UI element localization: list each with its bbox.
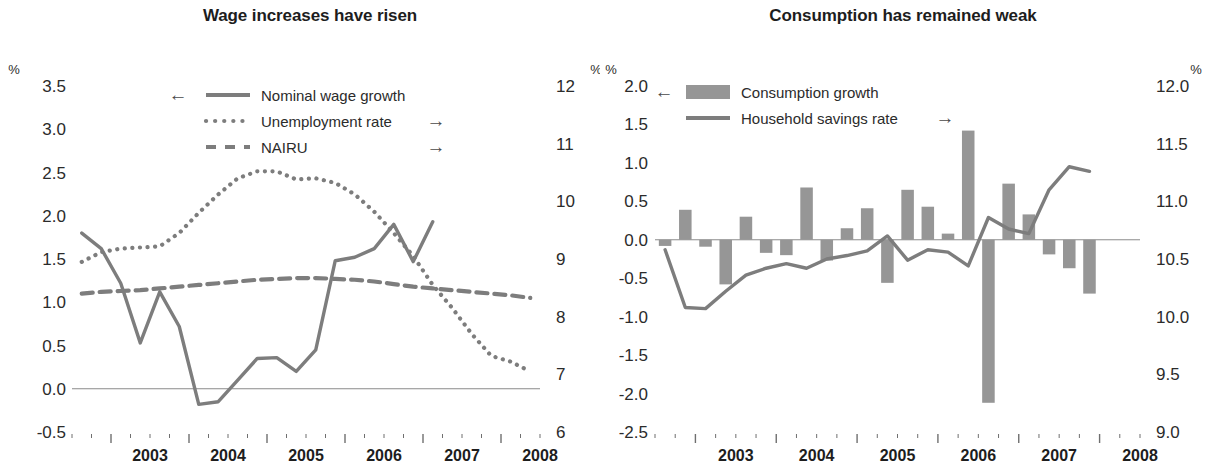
legend-item: →Household savings rate xyxy=(686,107,955,128)
left-axis-tick-label: 1.0 xyxy=(624,154,648,173)
legend-arrow-right-icon: → xyxy=(427,136,446,157)
right-axis-tick-label: 11.5 xyxy=(1156,135,1188,154)
left-axis-tick-label: 0.0 xyxy=(42,380,66,399)
legend-item: ←Consumption growth xyxy=(655,81,879,102)
x-axis-year-labels: 200320042005200620072008 xyxy=(132,447,558,464)
bar xyxy=(841,228,854,240)
right-axis-unit: % xyxy=(590,62,600,77)
right-axis-tick-label: 12.0 xyxy=(1156,77,1189,96)
legend-arrow-right-icon: → xyxy=(936,107,955,128)
right-axis-tick-label: 9 xyxy=(556,250,565,269)
legend-arrow-left-icon: ← xyxy=(655,81,674,102)
left-axis-unit: % xyxy=(8,62,20,77)
legend-item: ←Nominal wage growth xyxy=(169,84,406,105)
x-axis-year-label: 2006 xyxy=(961,447,997,464)
left-axis-tick-label: 2.0 xyxy=(624,77,648,96)
left-axis-tick-label: -0.5 xyxy=(37,423,66,442)
series-group xyxy=(82,171,531,404)
x-axis-year-label: 2007 xyxy=(1041,447,1077,464)
legend-item-label: Household savings rate xyxy=(741,110,898,127)
left-axis-tick-label: 1.5 xyxy=(624,115,648,134)
x-axis-year-label: 2004 xyxy=(799,447,835,464)
consumption-chart-panel: Consumption has remained weak %2.01.51.0… xyxy=(600,0,1206,468)
x-axis-year-label: 2004 xyxy=(210,447,246,464)
legend-item: →Unemployment rate xyxy=(206,110,446,131)
x-axis-year-label: 2005 xyxy=(288,447,324,464)
x-axis-ticks xyxy=(72,434,540,443)
legend-item-label: NAIRU xyxy=(261,139,308,156)
bar xyxy=(1043,240,1056,255)
left-axis-tick-label: 0.5 xyxy=(42,337,66,356)
left-axis-tick-label: 3.5 xyxy=(42,77,66,96)
x-axis-year-label: 2007 xyxy=(444,447,480,464)
left-axis-tick-label: 2.0 xyxy=(42,207,66,226)
right-axis-unit: % xyxy=(1190,62,1202,77)
right-axis-tick-label: 9.0 xyxy=(1156,423,1180,442)
right-axis-tick-label: 10 xyxy=(556,192,575,211)
left-axis-tick-label: -2.0 xyxy=(619,385,648,404)
left-axis-tick-label: -1.5 xyxy=(619,346,648,365)
right-axis-tick-label: 11.0 xyxy=(1156,192,1188,211)
legend-item: →NAIRU xyxy=(206,136,446,157)
left-axis-tick-label: 1.5 xyxy=(42,250,66,269)
wage-chart-plot: %3.53.02.52.01.51.00.50.0-0.5%1211109876… xyxy=(0,0,600,468)
figure-container: Wage increases have risen %3.53.02.52.01… xyxy=(0,0,1206,468)
x-axis-year-label: 2005 xyxy=(880,447,916,464)
right-axis-tick-label: 8 xyxy=(556,308,565,327)
bar xyxy=(861,208,874,240)
left-axis-tick-label: -2.5 xyxy=(619,423,648,442)
bar xyxy=(659,240,672,246)
legend-item-label: Nominal wage growth xyxy=(261,87,405,104)
legend-bar-swatch xyxy=(686,85,730,99)
left-axis-tick-label: 0.0 xyxy=(624,231,648,250)
x-axis-year-label: 2006 xyxy=(366,447,402,464)
x-axis-year-label: 2008 xyxy=(1122,447,1158,464)
legend: ←Nominal wage growth→Unemployment rate→N… xyxy=(169,84,446,157)
left-axis-tick-label: -1.0 xyxy=(619,308,648,327)
left-axis-tick-label: 0.5 xyxy=(624,192,648,211)
bar xyxy=(740,217,753,240)
legend: ←Consumption growth→Household savings ra… xyxy=(655,81,955,128)
line-series xyxy=(82,171,531,371)
line-series xyxy=(82,278,531,298)
x-axis-year-labels: 200320042005200620072008 xyxy=(718,447,1158,464)
bar xyxy=(922,207,935,240)
left-axis-tick-label: -0.5 xyxy=(619,269,648,288)
line-series xyxy=(82,222,433,405)
x-axis-ticks xyxy=(655,434,1140,443)
bar xyxy=(942,234,955,240)
bar xyxy=(760,240,773,253)
legend-arrow-right-icon: → xyxy=(427,110,446,131)
right-axis-tick-label: 9.5 xyxy=(1156,365,1180,384)
right-axis-tick-label: 7 xyxy=(556,365,565,384)
left-axis-tick-label: 2.5 xyxy=(42,164,66,183)
bar xyxy=(679,210,692,240)
bar xyxy=(982,240,995,403)
legend-item-label: Unemployment rate xyxy=(261,113,392,130)
x-axis-year-label: 2003 xyxy=(132,447,168,464)
bar xyxy=(1083,240,1096,294)
legend-arrow-left-icon: ← xyxy=(169,84,188,105)
legend-item-label: Consumption growth xyxy=(741,84,879,101)
bar xyxy=(1063,240,1076,268)
right-axis-tick-label: 10.5 xyxy=(1156,250,1189,269)
left-axis-tick-label: 3.0 xyxy=(42,120,66,139)
x-axis-year-label: 2008 xyxy=(522,447,558,464)
series-group xyxy=(659,131,1096,403)
bar xyxy=(901,190,914,240)
right-axis-tick-label: 6 xyxy=(556,423,565,442)
right-axis-tick-label: 11 xyxy=(556,135,574,154)
bar xyxy=(699,240,712,247)
wage-chart-panel: Wage increases have risen %3.53.02.52.01… xyxy=(0,0,600,468)
bar xyxy=(962,131,975,240)
bar xyxy=(881,240,894,283)
right-axis-tick-label: 10.0 xyxy=(1156,308,1189,327)
bar xyxy=(719,240,732,285)
left-axis-tick-label: 1.0 xyxy=(42,293,66,312)
right-axis-tick-label: 12 xyxy=(556,77,575,96)
consumption-chart-plot: %2.01.51.00.50.0-0.5-1.0-1.5-2.0-2.5%12.… xyxy=(600,0,1206,468)
left-axis-unit: % xyxy=(605,62,617,77)
bar xyxy=(800,187,813,239)
x-axis-year-label: 2003 xyxy=(718,447,754,464)
bar xyxy=(780,240,793,255)
